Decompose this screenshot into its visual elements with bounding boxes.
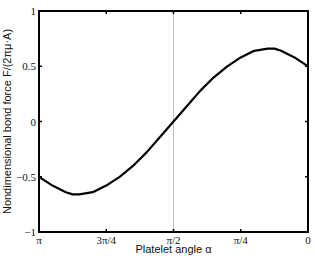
x-tick-label: π/4 (234, 234, 249, 246)
x-tick-label: π (36, 234, 42, 246)
y-axis-label: Nondimensional bond force F/(2πμ·A) (1, 29, 13, 214)
y-tick-label: −1 (24, 226, 36, 238)
axis-ticks: π3π/4π/2π/4010.50−0.5−1 (16, 5, 311, 246)
chart: π3π/4π/2π/4010.50−0.5−1 Platelet angle α… (0, 0, 315, 260)
plot-area (39, 11, 308, 232)
x-tick-label: 0 (305, 234, 311, 246)
x-tick-label: 3π/4 (96, 234, 116, 246)
y-tick-label: 0.5 (22, 60, 36, 72)
y-tick-label: −0.5 (16, 171, 36, 183)
y-tick-label: 0 (31, 116, 37, 128)
x-axis-label: Platelet angle α (135, 243, 212, 255)
y-tick-label: 1 (31, 5, 37, 17)
